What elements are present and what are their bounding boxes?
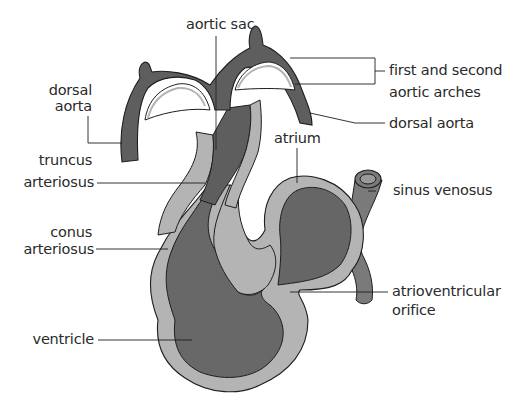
- label-ventricle: ventricle: [14, 331, 94, 348]
- label-sinus-venosus: sinus venosus: [393, 182, 492, 199]
- label-truncus-line1: truncus: [20, 152, 92, 169]
- label-conus-line2: arteriosus: [10, 241, 94, 258]
- label-dorsal-aorta-left-line1: dorsal: [30, 82, 92, 99]
- label-aortic-sac: aortic sac: [186, 16, 254, 33]
- label-first-second-arches-line2: aortic arches: [389, 84, 481, 101]
- label-conus-line1: conus: [20, 224, 92, 241]
- embryonic-heart-diagram: aortic sac dorsal aorta first and second…: [0, 0, 529, 411]
- label-dorsal-aorta-right: dorsal aorta: [389, 115, 474, 132]
- label-dorsal-aorta-left-line2: aorta: [30, 98, 92, 115]
- label-atrioventricular-line1: atrioventricular: [392, 283, 501, 300]
- label-atrium: atrium: [274, 130, 321, 147]
- label-first-second-arches-line1: first and second: [389, 62, 502, 79]
- label-truncus-line2: arteriosus: [10, 174, 94, 191]
- label-atrioventricular-line2: orifice: [392, 302, 436, 319]
